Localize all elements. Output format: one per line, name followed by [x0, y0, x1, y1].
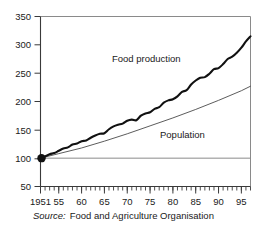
source-note: Source:Food and Agriculture Organisation: [33, 210, 214, 222]
y-tick-label: 100: [15, 153, 31, 164]
source-label: Source:: [33, 210, 66, 221]
plot-frame: [41, 17, 251, 187]
x-tick-label: 80: [168, 196, 179, 207]
y-tick-label: 250: [15, 68, 31, 79]
series-label-food-production: Food production: [112, 53, 181, 64]
series-line-population: [41, 86, 251, 158]
x-tick-label: 95: [236, 196, 247, 207]
y-tick-label: 150: [15, 125, 31, 136]
food-production-vs-population-chart: 350 300 250 200 150 100 50 1951556065707…: [0, 0, 280, 231]
origin-marker-dot: [37, 154, 45, 162]
x-tick-label: 90: [213, 196, 224, 207]
series-label-population: Population: [160, 129, 205, 140]
source-text: Food and Agriculture Organisation: [70, 210, 214, 221]
x-tick-label: 65: [99, 196, 110, 207]
y-tick-label: 200: [15, 96, 31, 107]
chart-figure: 350 300 250 200 150 100 50 1951556065707…: [0, 0, 280, 231]
x-tick-label: 75: [145, 196, 156, 207]
x-tick-label: 85: [190, 196, 201, 207]
x-tick-label: 60: [76, 196, 87, 207]
y-tick-label: 50: [20, 181, 31, 192]
x-axis-labels: 1951556065707580859095: [30, 196, 247, 207]
x-tick-label: 1951: [30, 196, 51, 207]
y-axis-labels: 350 300 250 200 150 100 50: [15, 11, 31, 192]
x-tick-label: 55: [53, 196, 64, 207]
x-tick-label: 70: [122, 196, 133, 207]
y-tick-label: 350: [15, 11, 31, 22]
y-tick-label: 300: [15, 39, 31, 50]
